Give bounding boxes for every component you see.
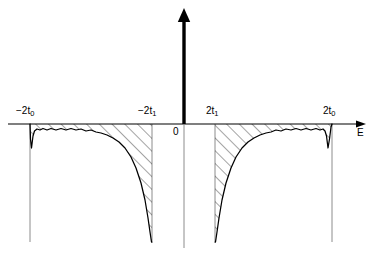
y-axis xyxy=(178,8,190,248)
origin-label: 0 xyxy=(173,126,179,137)
tick-label-neg-2t0: −2t0 xyxy=(16,105,34,116)
tick-label-pos-2t0: 2t0 xyxy=(323,105,336,116)
dos-figure: −2t0 −2t1 2t1 2t0 0 E xyxy=(0,0,377,260)
tick-label-neg-2t1: −2t1 xyxy=(138,105,156,116)
tick-label-pos-2t1: 2t1 xyxy=(206,105,219,116)
plot-canvas xyxy=(0,0,377,260)
x-axis-label: E xyxy=(357,127,364,138)
y-axis-arrowhead xyxy=(178,8,190,22)
band-edge-guides xyxy=(30,124,332,242)
